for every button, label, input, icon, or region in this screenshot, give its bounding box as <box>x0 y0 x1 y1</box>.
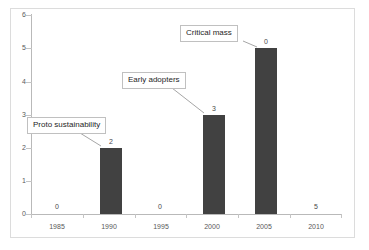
annotation-critical-mass: Critical mass <box>180 25 238 42</box>
y-axis-tick-label: 3 <box>14 111 26 119</box>
y-axis-tick-label: 1 <box>14 177 26 185</box>
annotation-proto-sustainability: Proto sustainability <box>27 117 106 134</box>
value-label-1995: 0 <box>145 203 175 211</box>
y-axis-tick-label: 0 <box>14 210 26 218</box>
x-axis-tick <box>341 214 342 218</box>
bar-1990 <box>100 148 122 214</box>
x-axis-tick <box>135 214 136 218</box>
value-label-1990: 2 <box>96 138 126 146</box>
value-label-2010: 5 <box>301 203 331 211</box>
y-axis-tick-label: 2 <box>14 144 26 152</box>
y-axis-tick <box>26 82 32 83</box>
y-axis-tick <box>26 181 32 182</box>
x-axis-tick <box>238 214 239 218</box>
bar-chart: 6 5 4 3 2 1 0 1985 1990 1995 2000 2005 2… <box>0 0 369 250</box>
value-label-1985: 0 <box>42 203 72 211</box>
bar-2005 <box>255 48 277 214</box>
bar-2000 <box>203 115 225 214</box>
value-label-2000: 3 <box>199 105 229 113</box>
x-axis-tick <box>31 214 32 218</box>
x-axis-label-1995: 1995 <box>135 222 187 231</box>
y-axis-tick <box>26 48 32 49</box>
x-axis-tick <box>83 214 84 218</box>
y-axis-tick <box>26 115 32 116</box>
y-axis-tick <box>26 148 32 149</box>
x-axis-tick <box>290 214 291 218</box>
y-axis-tick-label: 6 <box>14 11 26 19</box>
value-label-2005: 0 <box>251 38 281 46</box>
x-axis-label-1985: 1985 <box>31 222 83 231</box>
x-axis-label-1990: 1990 <box>83 222 135 231</box>
y-axis-tick-label: 4 <box>14 78 26 86</box>
x-axis-tick <box>186 214 187 218</box>
x-axis-label-2010: 2010 <box>290 222 342 231</box>
x-axis-label-2000: 2000 <box>186 222 238 231</box>
annotation-early-adopters: Early adopters <box>122 72 186 89</box>
y-axis-tick-label: 5 <box>14 44 26 52</box>
y-axis-tick <box>26 15 32 16</box>
x-axis-label-2005: 2005 <box>238 222 290 231</box>
